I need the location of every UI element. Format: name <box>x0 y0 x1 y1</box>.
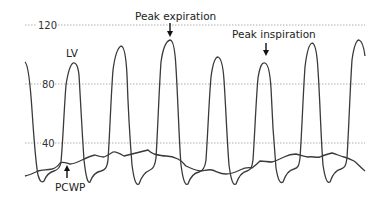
lv-label: LV <box>66 47 79 59</box>
peak-inspiration-label: Peak inspiration <box>232 28 316 40</box>
y-tick-120: 120 <box>38 20 57 31</box>
y-tick-40: 40 <box>42 138 55 149</box>
lv-pcwp-pressure-chart: 120 80 40 LV Peak expiration Peak inspir… <box>0 0 384 203</box>
pcwp-arrowhead-icon <box>64 165 70 171</box>
y-tick-80: 80 <box>42 79 55 90</box>
peak-expiration-label: Peak expiration <box>135 10 216 22</box>
pcwp-label: PCWP <box>55 181 85 193</box>
pcwp-trace <box>25 150 365 176</box>
peak-inspiration-arrowhead-icon <box>263 50 269 56</box>
peak-expiration-arrowhead-icon <box>167 31 173 37</box>
